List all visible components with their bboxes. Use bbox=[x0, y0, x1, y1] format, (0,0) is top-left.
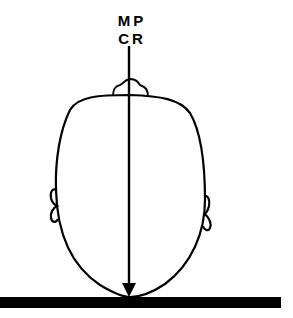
label-mp: MP bbox=[114, 13, 150, 28]
image-receptor-bar bbox=[0, 297, 281, 308]
head-outline bbox=[56, 95, 205, 297]
arrowhead-icon bbox=[122, 283, 136, 297]
diagram-drawing bbox=[0, 0, 293, 318]
label-cr: CR bbox=[114, 31, 150, 46]
skull-positioning-diagram: MP CR bbox=[0, 0, 293, 318]
